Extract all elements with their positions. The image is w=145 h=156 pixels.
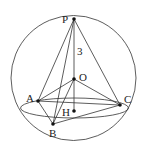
point-P	[72, 17, 76, 21]
label-H: H	[62, 106, 70, 118]
point-B	[51, 122, 55, 126]
diagram-shapes	[11, 16, 136, 141]
segment-PA	[38, 19, 74, 101]
label-P: P	[62, 13, 68, 25]
sphere-pyramid-diagram: POABCH 3	[0, 0, 145, 156]
point-O	[72, 77, 76, 81]
label-C: C	[124, 93, 131, 105]
point-H	[72, 109, 76, 113]
segment-AB	[38, 101, 53, 124]
point-A	[36, 99, 40, 103]
length-annotation: 3	[77, 45, 83, 57]
segment-AC	[38, 101, 120, 105]
label-B: B	[49, 127, 56, 139]
label-O: O	[79, 71, 87, 83]
point-C	[118, 103, 122, 107]
label-A: A	[26, 92, 34, 104]
